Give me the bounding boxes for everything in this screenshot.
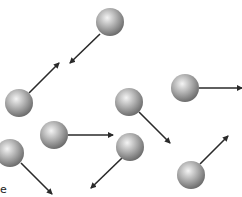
velocity-arrow-7 [21, 163, 52, 194]
particle-4 [115, 88, 143, 116]
particle-8 [177, 161, 205, 189]
particle-diagram [0, 0, 242, 197]
velocity-arrow-4 [139, 112, 170, 143]
particle-3 [171, 74, 199, 102]
velocity-arrow-1 [70, 34, 100, 63]
velocity-arrow-2 [29, 63, 59, 93]
particle-2 [5, 89, 33, 117]
label-fragment: e [0, 184, 7, 195]
particle-6 [116, 133, 144, 161]
particle-5 [40, 121, 68, 149]
particles [0, 8, 205, 189]
velocity-arrow-8 [200, 136, 228, 164]
particle-7 [0, 139, 24, 167]
particle-1 [96, 8, 124, 36]
velocity-arrow-6 [91, 158, 122, 188]
